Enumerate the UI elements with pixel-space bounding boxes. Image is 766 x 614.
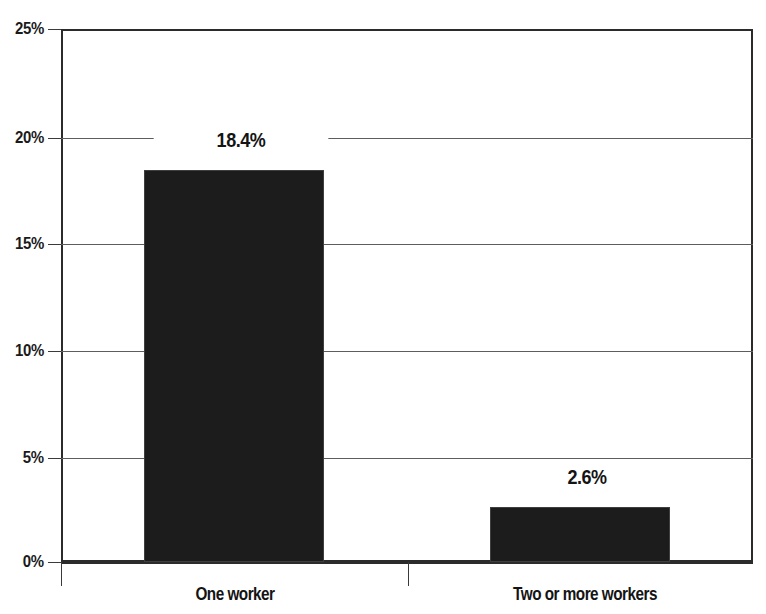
y-axis-label-0: 0% — [23, 552, 44, 572]
y-axis-label-10: 10% — [15, 341, 44, 361]
y-axis-label-15: 15% — [15, 234, 44, 254]
y-axis-label-20: 20% — [15, 128, 44, 148]
y-tick-mark-10 — [48, 351, 61, 352]
x-axis-label-one-worker: One worker — [167, 584, 303, 605]
y-tick-mark-15 — [48, 244, 61, 245]
x-axis-baseline — [61, 562, 753, 564]
y-axis-label-5: 5% — [23, 448, 44, 468]
bar-two-or-more-workers[interactable] — [490, 507, 670, 562]
x-axis-label-two-or-more-workers: Two or more workers — [487, 584, 683, 605]
y-tick-mark-25 — [48, 29, 61, 30]
value-label-one-worker: 18.4% — [154, 130, 329, 150]
y-axis-label-25: 25% — [15, 19, 44, 39]
x-axis-category-divider-tick — [408, 562, 409, 586]
bar-one-worker[interactable] — [144, 170, 324, 562]
x-axis-left-tick — [61, 562, 62, 586]
y-tick-mark-20 — [48, 138, 61, 139]
bar-chart: 25% 20% 15% 10% 5% 0% 18.4% 2.6% One wor… — [0, 0, 766, 614]
y-tick-mark-0 — [48, 562, 61, 563]
y-tick-mark-5 — [48, 458, 61, 459]
value-label-two-or-more-workers: 2.6% — [500, 467, 675, 487]
